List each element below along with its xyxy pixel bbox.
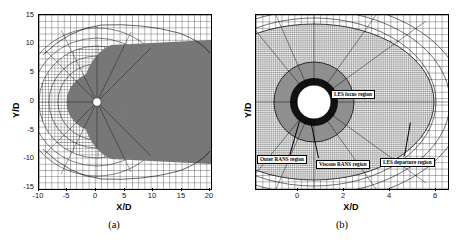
panel-a-xtick-0: 0 (81, 191, 109, 200)
figure-mesh-panels: Y/D 15 10 5 0 -5 -10 -15 (0, 0, 456, 245)
panel-b-xtick-6: 6 (421, 191, 449, 200)
annotation-les-focus-region: LES focus region (331, 90, 375, 99)
panel-a-ytick-10: 10 (6, 38, 34, 47)
panel-b-cylinder (297, 85, 331, 119)
panel-b-xtick-0: 0 (283, 191, 311, 200)
panel-a-ytick--5: -5 (6, 125, 34, 134)
panel-a-caption: (a) (0, 219, 228, 230)
panel-b-xtick-2: 2 (329, 191, 357, 200)
panel-b-caption: (b) (228, 219, 456, 230)
panel-a-ytick-15: 15 (6, 10, 34, 19)
panel-a-cylinder (93, 98, 101, 106)
panel-a-xtick--5: -5 (52, 191, 80, 200)
panel-a-ytick-0: 0 (6, 96, 34, 105)
annotation-les-departure-region: LES departure region (380, 158, 435, 167)
panel-a: Y/D 15 10 5 0 -5 -10 -15 (0, 0, 228, 245)
panel-a-xtick-10: 10 (138, 191, 166, 200)
annotation-viscous-rans-region: Viscous RANS region (316, 160, 370, 169)
panel-a-xtick-5: 5 (110, 191, 138, 200)
panel-b-x-axis-label: X/D (255, 202, 447, 212)
panel-a-xtick-20: 20 (195, 191, 223, 200)
panel-b: Y/D 2 0 -2 (228, 0, 456, 245)
panel-a-ytick-5: 5 (6, 67, 34, 76)
panel-a-ytick--10: -10 (6, 153, 34, 162)
panel-a-plot-area (38, 14, 212, 190)
panel-a-xtick-15: 15 (167, 191, 195, 200)
panel-a-xtick--10: -10 (24, 191, 52, 200)
annotation-outer-rans-region: Outer RANS region (257, 155, 307, 164)
panel-a-mesh (39, 15, 211, 189)
panel-a-x-axis-label: X/D (38, 202, 210, 212)
panel-b-xtick-4: 4 (375, 191, 403, 200)
panel-a-ytick--15: -15 (6, 182, 34, 191)
